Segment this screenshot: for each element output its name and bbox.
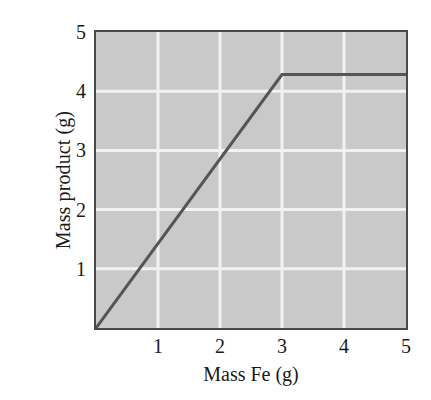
x-axis-tick-labels: 12345: [0, 336, 431, 362]
y-tick-label: 3: [58, 140, 86, 160]
gridlines: [96, 32, 406, 328]
y-tick-label: 2: [58, 200, 86, 220]
y-tick-label: 4: [58, 81, 86, 101]
data-series-group: [96, 75, 406, 328]
x-tick-label: 1: [138, 336, 178, 356]
x-tick-label: 4: [324, 336, 364, 356]
x-tick-label: 2: [200, 336, 240, 356]
x-axis-title: Mass Fe (g): [94, 363, 408, 385]
y-tick-label: 1: [58, 259, 86, 279]
data-line: [96, 75, 406, 328]
chart-figure: Mass product (g) 12345 12345 Mass Fe (g): [0, 0, 431, 400]
y-tick-label: 5: [58, 22, 86, 42]
plot-area: [94, 30, 408, 330]
x-tick-label: 3: [262, 336, 302, 356]
x-tick-label: 5: [386, 336, 426, 356]
plot-svg: [96, 32, 406, 328]
